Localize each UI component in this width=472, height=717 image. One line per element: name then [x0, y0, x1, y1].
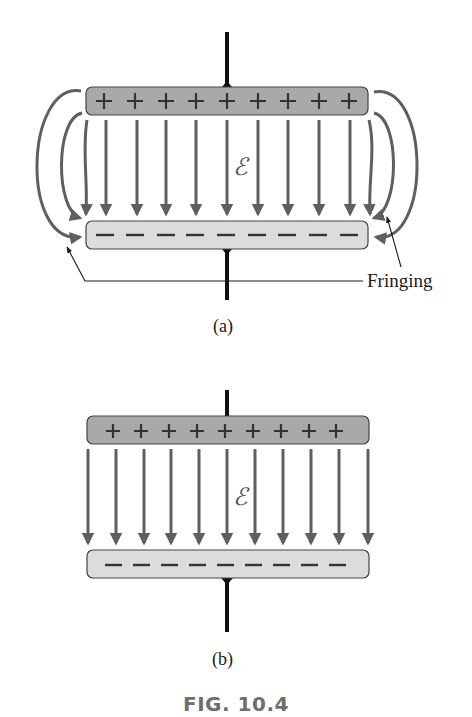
- panel-label-a: (a): [213, 316, 233, 337]
- panel-label-b: (b): [212, 649, 233, 670]
- fringing-arcs-left: [37, 91, 82, 238]
- fringing-label: Fringing: [367, 270, 432, 292]
- panel-a: [37, 32, 417, 300]
- figure-caption: FIG. 10.4: [183, 692, 289, 716]
- field-symbol-a: ℰ: [233, 153, 248, 181]
- field-lines-b: [88, 449, 368, 543]
- field-symbol-b: ℰ: [233, 483, 248, 511]
- fringing-arcs-right: [374, 92, 417, 238]
- capacitor-diagram: [0, 0, 472, 717]
- field-lines-a: [85, 120, 372, 214]
- panel-b: [87, 390, 369, 632]
